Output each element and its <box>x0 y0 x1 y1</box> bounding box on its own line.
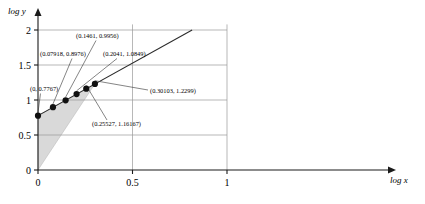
y-tick-label-1: 0.5 <box>19 130 32 141</box>
log-log-scatter-plot: 00.511.5200.51log xlog y(0, 0.7767)(0.07… <box>0 0 425 204</box>
data-point-0[interactable] <box>35 113 41 119</box>
fitted-trend-line <box>38 30 192 116</box>
point-label-5: (0.30103, 1.2299) <box>150 87 196 95</box>
y-tick-label-4: 2 <box>26 25 31 36</box>
point-label-2: (0.1461, 0.9956) <box>76 32 119 40</box>
slope-triangle-shading <box>38 84 95 170</box>
point-label-0: (0, 0.7767) <box>30 85 58 93</box>
point-label-3: (0.2041, 1.0849) <box>103 50 146 58</box>
y-tick-label-2: 1 <box>26 95 31 106</box>
x-tick-label-0: 0 <box>36 177 41 188</box>
data-point-5[interactable] <box>92 81 98 87</box>
x-tick-label-2: 1 <box>225 177 230 188</box>
leader-line-4 <box>86 85 107 120</box>
point-label-1: (0.07918, 0.8976) <box>40 50 86 58</box>
x-tick-label-1: 0.5 <box>126 177 139 188</box>
data-point-3[interactable] <box>73 91 79 97</box>
x-axis-arrow-icon <box>388 167 396 174</box>
chart-canvas: 00.511.5200.51log xlog y(0, 0.7767)(0.07… <box>0 0 425 204</box>
x-axis-name: log x <box>390 175 408 185</box>
y-tick-label-3: 1.5 <box>19 60 32 71</box>
y-axis-name: log y <box>8 6 26 16</box>
point-label-4: (0.25527, 1.16167) <box>92 120 141 128</box>
leader-line-5 <box>95 81 148 90</box>
y-tick-label-0: 0 <box>26 165 31 176</box>
y-axis-arrow-icon <box>35 8 42 16</box>
data-point-1[interactable] <box>50 104 56 110</box>
data-point-4[interactable] <box>83 86 89 92</box>
data-point-2[interactable] <box>63 97 69 103</box>
